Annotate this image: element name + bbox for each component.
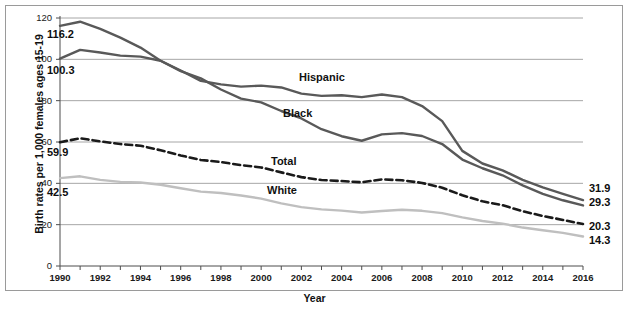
series-label-black: Black bbox=[283, 107, 312, 119]
value-label-total-start: 59.9 bbox=[47, 146, 68, 158]
x-tick-label: 1998 bbox=[204, 272, 238, 283]
chart-figure: 0204060801001201990199219941996199820002… bbox=[0, 0, 629, 314]
x-tick-label: 2000 bbox=[244, 272, 278, 283]
value-label-total-end: 20.3 bbox=[589, 220, 610, 232]
x-tick-label: 1992 bbox=[83, 272, 117, 283]
x-tick-label: 2006 bbox=[365, 272, 399, 283]
x-tick-label: 2012 bbox=[486, 272, 520, 283]
x-tick-label: 1990 bbox=[43, 272, 77, 283]
value-label-hispanic-start: 100.3 bbox=[47, 64, 75, 76]
value-label-hispanic-end: 31.9 bbox=[589, 182, 610, 194]
x-tick-label: 2010 bbox=[445, 272, 479, 283]
x-tick-label: 1994 bbox=[123, 272, 157, 283]
series-line-black bbox=[60, 22, 583, 206]
series-label-white: White bbox=[267, 184, 297, 196]
x-axis-title: Year bbox=[0, 292, 629, 304]
value-label-black-end: 29.3 bbox=[589, 196, 610, 208]
x-tick-label: 2002 bbox=[284, 272, 318, 283]
y-axis-title: Birth rates per 1,000 females ages 15-19 bbox=[33, 19, 45, 249]
x-tick-label: 2014 bbox=[526, 272, 560, 283]
line-chart-plot bbox=[0, 0, 629, 314]
value-label-white-end: 14.3 bbox=[589, 234, 610, 246]
x-tick-label: 2004 bbox=[325, 272, 359, 283]
value-label-black-start: 116.2 bbox=[47, 28, 74, 40]
y-tick-label: 0 bbox=[26, 260, 52, 271]
series-line-total bbox=[60, 138, 583, 224]
series-label-hispanic: Hispanic bbox=[299, 71, 345, 83]
series-label-total: Total bbox=[271, 155, 296, 167]
x-tick-label: 1996 bbox=[164, 272, 198, 283]
x-tick-label: 2008 bbox=[405, 272, 439, 283]
x-tick-label: 2016 bbox=[566, 272, 600, 283]
value-label-white-start: 42.5 bbox=[47, 186, 68, 198]
